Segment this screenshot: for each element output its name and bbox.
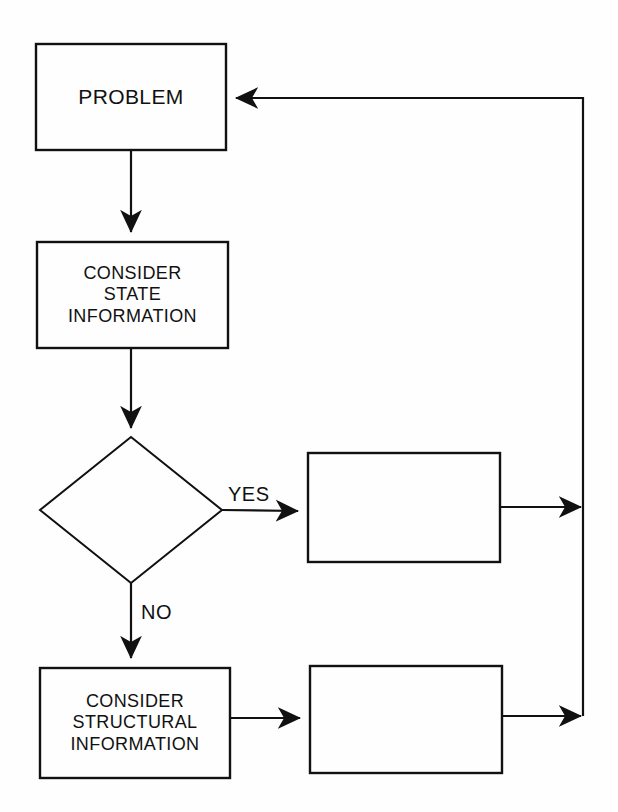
edge-label-yes: YES: [228, 483, 270, 506]
edge-feedback-trunk-to-problem: [236, 98, 583, 716]
edge-label-no: NO: [141, 601, 172, 624]
node-yes-result-shape: [308, 453, 500, 562]
flowchart-graphics: [0, 0, 618, 812]
node-decision-shape: [40, 437, 222, 583]
node-consider-structural-shape: [40, 668, 230, 778]
edge-decision-yes-to-yes-result: [222, 510, 298, 511]
node-no-result-shape: [310, 666, 502, 773]
node-problem-shape: [36, 44, 226, 150]
node-consider-state-shape: [37, 242, 228, 348]
flowchart-canvas: PROBLEM CONSIDER STATE INFORMATION CONSI…: [0, 0, 618, 812]
